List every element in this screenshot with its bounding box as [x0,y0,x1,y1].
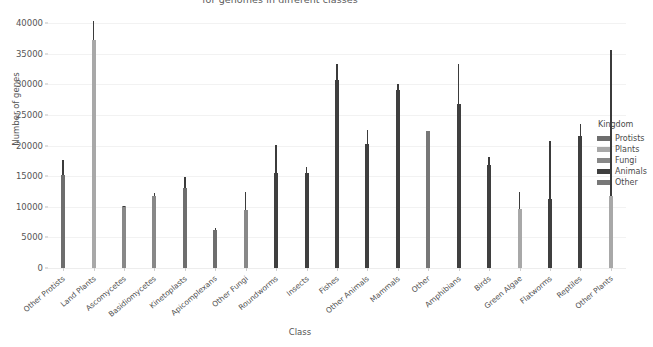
bar-body [365,144,369,268]
y-axis-tick-label: 10000 [16,202,43,212]
bar [487,14,491,268]
x-axis-tick-mark [94,268,95,271]
x-axis-tick-mark [307,268,308,271]
error-bar [245,192,247,210]
bar-body [305,173,309,268]
bar [183,14,187,268]
chart-title: for genomes in different classes [0,0,560,5]
bar-body [578,136,582,268]
error-bar [154,193,156,196]
legend-item-label: Protists [615,134,645,143]
bar [548,14,552,268]
y-axis-tick-label: 0 [38,263,43,273]
error-bar [519,192,521,209]
bar [152,14,156,268]
legend-swatch [597,169,610,174]
bar [92,14,96,268]
bar-body [92,40,96,268]
x-axis-tick-mark [185,268,186,271]
x-axis-tick-mark [337,268,338,271]
x-axis-tick-mark [489,268,490,271]
bar-body [548,199,552,268]
error-bar [336,64,338,81]
error-bar [215,228,217,230]
legend-swatch [597,147,610,152]
legend-item: Plants [597,144,653,155]
x-axis-tick-label: Other Plants [555,274,614,326]
bar [122,14,126,268]
x-axis-tick-mark [124,268,125,271]
bar-body [609,196,613,268]
x-axis-tick-mark [154,268,155,271]
x-axis-tick-mark [428,268,429,271]
bar-body [457,104,461,268]
legend-item-label: Plants [615,145,639,154]
bar [578,14,582,268]
bar-body [61,175,65,268]
x-axis-tick-mark [215,268,216,271]
plot-area [48,14,626,268]
bar-body [122,206,126,268]
legend-item: Fungi [597,155,653,166]
legend-swatch [597,180,610,185]
error-bar [184,177,186,188]
x-axis-tick-mark [580,268,581,271]
bar [274,14,278,268]
x-axis-tick-mark [63,268,64,271]
bar [213,14,217,268]
bar-body [335,80,339,268]
y-axis-tick-label: 40000 [16,18,43,28]
x-axis-tick-mark [246,268,247,271]
bar-body [274,173,278,268]
error-bar [367,130,369,144]
y-axis-label: Number of genes [11,39,21,179]
legend-item: Protists [597,133,653,144]
x-axis-tick-mark [520,268,521,271]
bar [365,14,369,268]
bar [335,14,339,268]
bar-body [487,165,491,268]
legend-item: Animals [597,166,653,177]
legend-item: Other [597,177,653,188]
error-bar [549,141,551,199]
error-bar [275,145,277,173]
y-axis: 0500010000150002000025000300003500040000 [0,14,48,268]
bar [426,14,430,268]
chart-root: for genomes in different classes 0500010… [0,0,653,347]
error-bar [488,157,490,165]
legend-swatch [597,158,610,163]
x-axis-tick-mark [611,268,612,271]
bar-body [213,230,217,268]
legend-swatch [597,136,610,141]
legend-item-label: Fungi [615,156,637,165]
error-bar [62,160,64,175]
legend-item-label: Other [615,178,638,187]
error-bar [306,167,308,173]
error-bar [93,21,95,40]
bar [305,14,309,268]
y-axis-tick-label: 5000 [21,232,43,242]
bar-body [396,90,400,268]
x-axis: Other ProtistsLand PlantsAscomycetesBasi… [48,268,626,328]
bar-body [152,196,156,268]
error-bar [580,124,582,136]
bar-body [244,210,248,268]
bar-body [426,131,430,268]
x-axis-tick-mark [276,268,277,271]
legend-title: Kingdom [598,120,653,129]
x-axis-tick-mark [459,268,460,271]
legend-item-label: Animals [615,167,647,176]
legend-items: ProtistsPlantsFungiAnimalsOther [597,133,653,188]
bar [61,14,65,268]
bar [518,14,522,268]
error-bar [458,64,460,104]
x-axis-tick-mark [398,268,399,271]
x-axis-tick-label: Roundworms [221,274,280,326]
bar [244,14,248,268]
error-bar [123,206,125,207]
legend: Kingdom ProtistsPlantsFungiAnimalsOther [597,120,653,188]
x-axis-tick-mark [367,268,368,271]
bar [396,14,400,268]
bar-body [183,188,187,268]
bar-body [518,209,522,268]
